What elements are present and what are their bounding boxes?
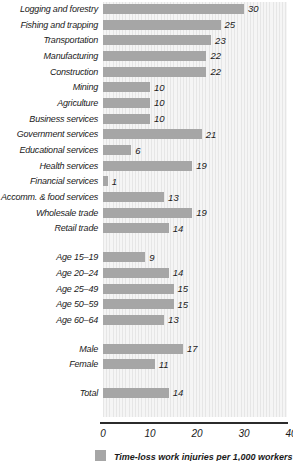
bar (103, 192, 164, 202)
category-label: Financial services (0, 176, 103, 186)
bar (103, 82, 150, 92)
category-label: Age 60–64 (0, 315, 103, 325)
bar-row: Manufacturing22 (0, 48, 293, 64)
bar-row: Mining10 (0, 79, 293, 95)
bar (103, 35, 211, 45)
category-label: Age 15–19 (0, 252, 103, 262)
bar (103, 315, 164, 325)
bar-row: Fishing and trapping25 (0, 17, 293, 33)
value-label: 15 (178, 283, 189, 294)
category-label: Male (0, 344, 103, 354)
category-label: Health services (0, 161, 103, 171)
category-label: Accomm. & food services (0, 192, 103, 202)
bar-row: Transportation23 (0, 32, 293, 48)
value-label: 14 (173, 267, 184, 278)
value-label: 14 (173, 387, 184, 398)
bar (103, 252, 145, 262)
bar-row: Financial services1 (0, 174, 293, 190)
bar-row: Business services10 (0, 111, 293, 127)
value-label: 11 (159, 359, 169, 370)
bar (103, 67, 206, 77)
bar-row: Total14 (0, 385, 293, 401)
bar-row: Educational services6 (0, 142, 293, 158)
bar-row: Age 20–2414 (0, 265, 293, 281)
bar (103, 268, 169, 278)
value-label: 13 (168, 192, 179, 203)
bar (103, 98, 150, 108)
category-label: Construction (0, 67, 103, 77)
x-tick-label: 40 (285, 428, 293, 439)
injury-rate-bar-chart: Logging and forestry30Fishing and trappi… (0, 0, 293, 461)
value-label: 19 (196, 160, 207, 171)
bar (103, 176, 108, 186)
category-label: Logging and forestry (0, 4, 103, 14)
bar (103, 145, 131, 155)
bar-row: Retail trade14 (0, 221, 293, 237)
bar (103, 284, 174, 294)
value-label: 23 (215, 35, 226, 46)
bar-row: Logging and forestry30 (0, 1, 293, 17)
bar (103, 344, 183, 354)
bar-row: Construction22 (0, 64, 293, 80)
value-label: 15 (178, 299, 189, 310)
category-label: Total (0, 388, 103, 398)
legend: Time-loss work injuries per 1,000 worker… (95, 450, 292, 461)
category-label: Retail trade (0, 223, 103, 233)
bar (103, 299, 174, 309)
bar (103, 161, 192, 171)
bar-row: Male17 (0, 341, 293, 357)
x-tick-label: 0 (100, 428, 106, 439)
bar (103, 51, 206, 61)
bar (103, 388, 169, 398)
x-tick-label: 30 (238, 428, 249, 439)
x-axis-line (100, 422, 288, 424)
bar (103, 20, 221, 30)
category-label: Transportation (0, 35, 103, 45)
category-label: Age 20–24 (0, 268, 103, 278)
bar-row: Age 50–5915 (0, 296, 293, 312)
category-label: Government services (0, 129, 103, 139)
category-label: Manufacturing (0, 51, 103, 61)
value-label: 17 (187, 343, 198, 354)
value-label: 22 (210, 66, 221, 77)
legend-swatch-icon (95, 450, 106, 461)
bar-row: Female11 (0, 356, 293, 372)
category-label: Wholesale trade (0, 208, 103, 218)
value-label: 10 (154, 97, 165, 108)
bar (103, 359, 155, 369)
value-label: 14 (173, 223, 184, 234)
value-label: 10 (154, 113, 165, 124)
category-label: Age 25–49 (0, 284, 103, 294)
value-label: 25 (225, 19, 236, 30)
bar (103, 223, 169, 233)
bar (103, 129, 202, 139)
bar-row: Health services19 (0, 158, 293, 174)
bar-rows: Logging and forestry30Fishing and trappi… (0, 1, 293, 401)
value-label: 9 (149, 252, 154, 263)
legend-label: Time-loss work injuries per 1,000 worker… (114, 450, 292, 461)
bar (103, 208, 192, 218)
value-label: 10 (154, 82, 165, 93)
value-label: 21 (206, 129, 217, 140)
value-label: 1 (112, 176, 117, 187)
bar (103, 4, 244, 14)
category-label: Business services (0, 114, 103, 124)
value-label: 13 (168, 314, 179, 325)
category-label: Age 50–59 (0, 299, 103, 309)
value-label: 22 (210, 50, 221, 61)
value-label: 30 (248, 3, 259, 14)
value-label: 6 (135, 145, 140, 156)
category-label: Female (0, 359, 103, 369)
category-label: Agriculture (0, 98, 103, 108)
bar-row: Accomm. & food services13 (0, 189, 293, 205)
bar-row: Age 25–4915 (0, 281, 293, 297)
bar (103, 114, 150, 124)
x-tick-label: 10 (144, 428, 155, 439)
category-label: Fishing and trapping (0, 20, 103, 30)
bar-row: Age 15–199 (0, 249, 293, 265)
category-label: Mining (0, 82, 103, 92)
bar-row: Agriculture10 (0, 95, 293, 111)
value-label: 19 (196, 207, 207, 218)
bar-row: Age 60–6413 (0, 312, 293, 328)
x-tick-label: 20 (191, 428, 202, 439)
